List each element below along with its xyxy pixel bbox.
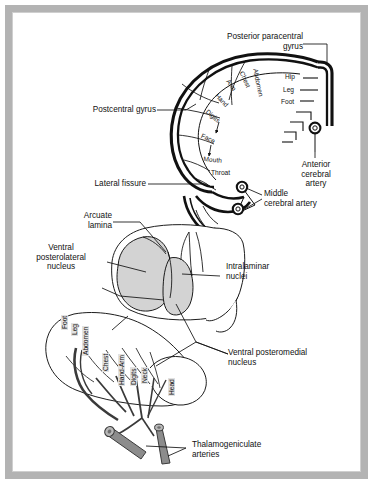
label-anterior-cerebral-artery: Anterior cerebral artery xyxy=(286,160,346,189)
homunculus-label-throat: Throat xyxy=(211,169,230,176)
homunculus-label-foot: Foot xyxy=(281,98,294,105)
thalamogeniculate-artery-stump-right xyxy=(155,424,170,464)
label-postcentral-gyrus: Postcentral gyrus xyxy=(52,105,156,115)
thalamic-homunculus-label-hand-arm: Hand-Arm xyxy=(118,354,125,386)
label-arcuate-lamina: Arcuate lamina xyxy=(40,211,112,230)
label-ventral-posteromedial-nucleus: Ventral posteromedial nucleus xyxy=(228,348,354,367)
thalamic-homunculus-body xyxy=(46,313,207,407)
label-ventral-posterolateral-nucleus: Ventral posterolateral nucleus xyxy=(18,243,104,272)
homunculus-label-leg: Leg xyxy=(283,86,294,93)
thalamic-homunculus-label-abdomen: Abdomen xyxy=(82,326,89,356)
thalamic-homunculus-label-neck: Neck xyxy=(141,367,148,384)
anatomy-figure: Posterior paracentral gyrus Postcentral … xyxy=(0,0,381,492)
thalamic-homunculus-label-leg: Leg xyxy=(71,323,78,336)
thalamic-homunculus-label-foot: Foot xyxy=(61,315,68,330)
anterior-cerebral-artery-marker xyxy=(310,123,321,152)
label-intralaminar-nuclei: Intralaminar nuclei xyxy=(226,262,326,281)
thalamic-homunculus-label-digits: Digits xyxy=(130,368,137,387)
thalamic-homunculus-label-chest: Chest xyxy=(102,353,109,372)
label-thalamogeniculate-arteries: Thalamogeniculate arteries xyxy=(192,440,310,459)
thalamic-homunculus-label-head: Head xyxy=(168,378,175,396)
label-middle-cerebral-artery: Middle cerebral artery xyxy=(264,189,368,208)
homunculus-label-hip: Hip xyxy=(285,73,295,80)
ventral-posteromedial-nucleus-shape xyxy=(163,258,193,315)
label-lateral-fissure: Lateral fissure xyxy=(54,179,146,189)
label-posterior-paracentral-gyrus: Posterior paracentral gyrus xyxy=(185,32,303,51)
